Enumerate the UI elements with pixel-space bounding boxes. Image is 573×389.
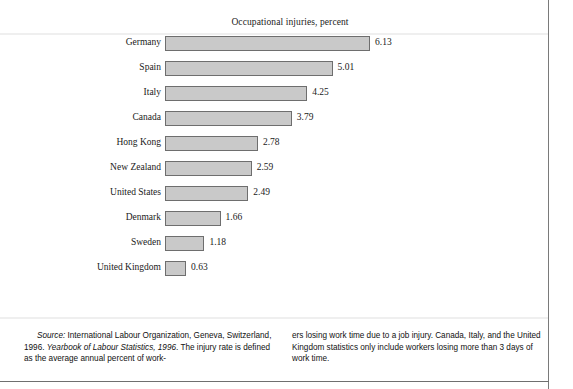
bar-row: New Zealand2.59 [0,161,548,186]
divider-above-footnote [0,317,548,319]
bar-category-label: Canada [0,112,161,122]
page-edge-rule [548,0,549,389]
bar-category-label: United States [0,187,161,197]
bar-rect [165,161,252,176]
bar-category-label: Denmark [0,212,161,222]
bar-track [165,61,333,76]
footnote-left-column: Source: International Labour Organizatio… [24,330,276,365]
bar-rect [165,86,307,101]
bar-value-label: 1.18 [209,237,226,247]
footnote-block: Source: International Labour Organizatio… [0,330,548,376]
bar-category-label: Germany [0,37,161,47]
bar-value-label: 3.79 [297,112,314,122]
bar-track [165,136,258,151]
bar-track [165,111,292,126]
bar-category-label: United Kingdom [0,262,161,272]
bar-rect [165,111,292,126]
bar-track [165,261,186,276]
footnote-right-column: ers losing work time due to a job injury… [292,330,544,365]
bar-row: Germany6.13 [0,36,548,61]
bar-row: Hong Kong2.78 [0,136,548,161]
bar-value-label: 2.59 [257,162,274,172]
bar-track [165,186,248,201]
bar-value-label: 2.49 [253,187,270,197]
bar-rect [165,261,186,276]
divider-top [0,33,548,35]
chart-page: Occupational injuries, percent Germany6.… [0,0,573,389]
bar-value-label: 2.78 [263,137,280,147]
chart-title: Occupational injuries, percent [165,17,415,27]
bar-value-label: 6.13 [375,37,392,47]
bar-category-label: Spain [0,62,161,72]
footnote-source-label: Source: [37,331,65,340]
bar-track [165,236,204,251]
bar-row: Denmark1.66 [0,211,548,236]
bar-chart-plot-area: Germany6.13Spain5.01Italy4.25Canada3.79H… [0,36,548,298]
bar-track [165,161,252,176]
bar-row: Italy4.25 [0,86,548,111]
footnote-right-line1: ers losing work time due to a job injury… [292,331,501,340]
bar-rect [165,136,258,151]
bar-track [165,86,307,101]
bar-category-label: Italy [0,87,161,97]
bar-track [165,36,370,51]
bar-value-label: 1.66 [226,212,243,222]
footnote-line2-b: . The [176,343,195,352]
footnote-publication-title: Yearbook of Labour Statistics, 1996 [47,343,176,352]
bar-row: Canada3.79 [0,111,548,136]
bar-category-label: Hong Kong [0,137,161,147]
bar-value-label: 0.63 [191,262,208,272]
bar-row: Sweden1.18 [0,236,548,261]
bar-rect [165,186,248,201]
footnote-source-text: International Labour Organization, Genev… [65,331,224,340]
bar-category-label: Sweden [0,237,161,247]
bar-row: United States2.49 [0,186,548,211]
bar-category-label: New Zealand [0,162,161,172]
divider-bottom [0,381,549,382]
bar-rect [165,211,221,226]
bar-rect [165,236,204,251]
bar-value-label: 4.25 [312,87,329,97]
bar-row: Spain5.01 [0,61,548,86]
bar-rect [165,61,333,76]
bar-rect [165,36,370,51]
bar-row: United Kingdom0.63 [0,261,548,286]
bar-track [165,211,221,226]
bar-value-label: 5.01 [338,62,355,72]
